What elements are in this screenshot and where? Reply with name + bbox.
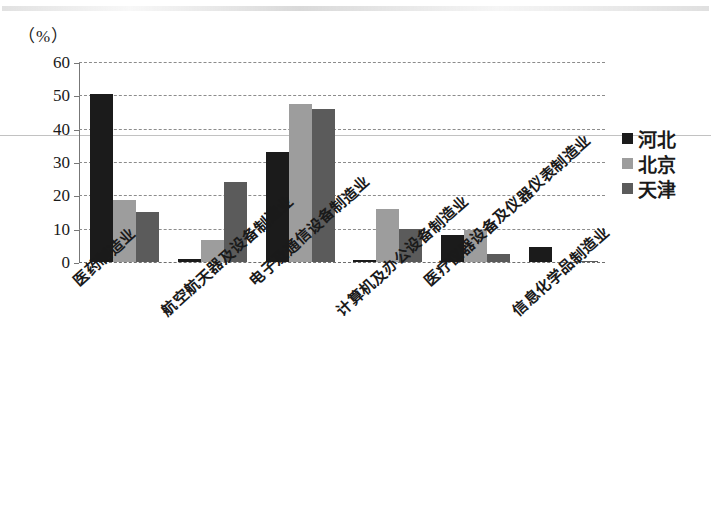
legend-item[interactable]: 北京 [622,151,708,176]
scan-artifact-top [2,6,709,11]
y-tick-label-0: 0 [62,253,71,273]
y-tick-mark-50 [74,96,79,97]
y-tick-mark-60 [74,63,79,64]
y-tick-label-30: 30 [53,153,70,173]
bar[interactable] [178,259,201,262]
legend-item[interactable]: 天津 [622,176,708,201]
y-tick-label-40: 40 [53,120,70,140]
y-tick-label-60: 60 [53,53,70,73]
y-axis-unit-label: （%） [18,22,69,47]
bar[interactable] [353,260,376,262]
bar[interactable] [529,247,552,262]
legend-item-label: 北京 [638,150,676,177]
legend-item-label: 河北 [638,125,676,152]
y-tick-mark-30 [74,163,79,164]
gridline-0: 0 [79,262,605,263]
legend-swatch-beijing [622,158,633,169]
y-tick-mark-20 [74,196,79,197]
plot-area: 0102030405060 [79,62,605,262]
bar-chart-figure: （%） 0102030405060 医药制造业航空航天器及设备制造业电子及通信设… [0,0,711,529]
y-tick-label-20: 20 [53,186,70,206]
legend-swatch-hebei [622,133,633,144]
legend-item-label: 天津 [638,175,676,202]
y-tick-mark-10 [74,230,79,231]
y-tick-mark-40 [74,130,79,131]
bar[interactable] [312,109,335,262]
chart-legend: 河北北京天津 [622,126,708,201]
legend-item[interactable]: 河北 [622,126,708,151]
bar[interactable] [487,254,510,262]
y-tick-label-50: 50 [53,86,70,106]
legend-swatch-tianjin [622,183,633,194]
y-tick-label-10: 10 [53,220,70,240]
